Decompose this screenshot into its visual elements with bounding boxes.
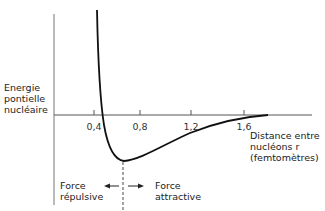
y-label-line: Energie xyxy=(4,82,48,93)
attractive-label-line: Force xyxy=(155,180,201,191)
potential-curve xyxy=(97,10,268,161)
tick-label: 1,2 xyxy=(183,121,198,132)
x-label-line: (femtomètres) xyxy=(250,152,320,163)
y-label-line: pontielle xyxy=(4,93,48,104)
x-label-line: nucléons r xyxy=(250,141,320,152)
x-axis-label: Distance entre nucléons r (femtomètres) xyxy=(250,130,320,163)
repulsive-label-line: Force xyxy=(60,180,103,191)
x-label-text: nucléons r xyxy=(250,141,299,152)
y-label-line: nucléaire xyxy=(4,104,48,115)
repulsive-arrow-icon xyxy=(104,184,119,189)
y-axis-label: Energie pontielle nucléaire xyxy=(4,82,48,115)
attractive-force-label: Force attractive xyxy=(155,180,201,202)
x-label-line: Distance entre xyxy=(250,130,320,141)
attractive-label-line: attractive xyxy=(155,191,201,202)
repulsive-label-line: répulsive xyxy=(60,191,103,202)
tick-label: 0,4 xyxy=(86,121,101,132)
tick-label: 0,8 xyxy=(132,121,147,132)
repulsive-force-label: Force répulsive xyxy=(60,180,103,202)
x-ticks xyxy=(94,110,244,115)
attractive-arrow-icon xyxy=(128,184,144,189)
